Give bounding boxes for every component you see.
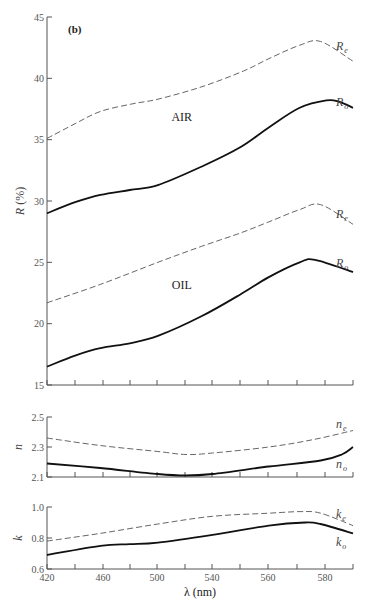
annotation-oil: OIL — [172, 278, 192, 292]
y-axis-label: R (%) — [13, 187, 27, 216]
series-label: ke — [336, 507, 346, 523]
series-label: ne — [336, 417, 347, 433]
series-label: Re — [335, 207, 348, 223]
y-tick-label: 2.5 — [32, 412, 45, 423]
y-tick-label: 1.0 — [32, 502, 45, 513]
series-line-r-o-air- — [47, 100, 353, 213]
refractive-index-panel: 2.12.32.5nneno — [11, 412, 353, 483]
extinction-coefficient-panel: 0.60.81.0kkeko420460500540560580λ (nm) — [11, 502, 353, 600]
y-tick-label: 0.8 — [32, 533, 45, 544]
series-line-n-e — [47, 431, 353, 455]
y-tick-label: 45 — [34, 12, 44, 23]
y-tick-label: 30 — [34, 196, 44, 207]
y-tick-label: 15 — [34, 380, 44, 391]
y-tick-label: 35 — [34, 134, 44, 145]
series-line-k-o — [47, 522, 353, 555]
x-tick-label: 460 — [96, 572, 111, 583]
x-tick-label: 420 — [40, 572, 55, 583]
series-label: Ro — [335, 95, 348, 111]
panel-tag: (b) — [68, 23, 82, 36]
series-line-r-e-air- — [47, 41, 353, 139]
series-label: Re — [335, 39, 348, 55]
x-axis-label: λ (nm) — [184, 585, 216, 599]
x-tick-label: 580 — [318, 572, 333, 583]
series-line-r-e-oil- — [47, 204, 353, 303]
x-tick-label: 560 — [261, 572, 276, 583]
x-tick-label: 540 — [205, 572, 220, 583]
annotation-air: AIR — [171, 110, 192, 124]
chart-figure: 15202530354045R (%)(b)AIROILReRoReRo 2.1… — [0, 0, 369, 609]
x-tick-label: 500 — [150, 572, 165, 583]
reflectance-panel: 15202530354045R (%)(b)AIROILReRoReRo — [13, 12, 353, 391]
series-line-r-o-oil- — [47, 259, 353, 366]
series-label: no — [336, 457, 347, 473]
series-line-n-o — [47, 447, 353, 476]
y-axis-label: k — [11, 535, 25, 541]
y-tick-label: 2.1 — [32, 472, 45, 483]
y-tick-label: 40 — [34, 73, 44, 84]
series-label: Ro — [335, 256, 348, 272]
y-tick-label: 2.3 — [32, 442, 45, 453]
y-axis-label: n — [11, 444, 25, 450]
y-tick-label: 20 — [34, 318, 44, 329]
series-label: ko — [336, 535, 346, 551]
y-tick-label: 25 — [34, 257, 44, 268]
